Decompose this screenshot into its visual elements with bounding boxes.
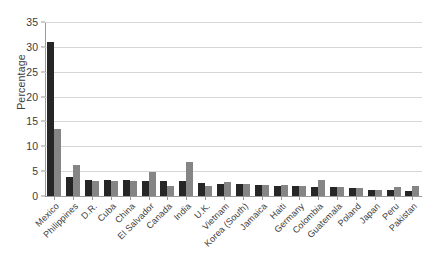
- x-axis-tick-slot: Pakistan: [403, 197, 422, 262]
- bar: [179, 181, 186, 196]
- bar: [262, 185, 269, 196]
- x-axis-tick-mark: [412, 197, 413, 200]
- x-axis-tick-mark: [318, 197, 319, 200]
- bar: [66, 177, 73, 196]
- x-axis-tick-mark: [205, 197, 206, 200]
- bar: [412, 186, 419, 196]
- bar: [236, 184, 243, 196]
- bar-group: [233, 22, 252, 196]
- y-axis-tick-label: 30: [26, 41, 38, 53]
- y-axis-tick-label: 35: [26, 16, 38, 28]
- bar: [387, 190, 394, 196]
- bar: [330, 187, 337, 196]
- bar: [104, 180, 111, 196]
- bar-group: [252, 22, 271, 196]
- bar-group: [102, 22, 121, 196]
- bar: [224, 182, 231, 196]
- bar: [85, 180, 92, 196]
- x-axis-tick-slot: India: [177, 197, 196, 262]
- x-axis-tick-mark: [149, 197, 150, 200]
- bar: [281, 185, 288, 196]
- bar: [73, 165, 80, 196]
- y-axis-tick-label: 15: [26, 115, 38, 127]
- bar: [186, 162, 193, 196]
- y-axis-tick-label: 5: [32, 165, 38, 177]
- x-axis-tick-slot: El Salvador: [139, 197, 158, 262]
- x-axis-tick-slot: Jamaica: [252, 197, 271, 262]
- bar-group: [290, 22, 309, 196]
- bar-group: [328, 22, 347, 196]
- y-axis-tick-label: 10: [26, 140, 38, 152]
- bar: [299, 186, 306, 196]
- bar-group: [215, 22, 234, 196]
- bar-group: [271, 22, 290, 196]
- bar: [394, 187, 401, 196]
- y-axis-tick-label: 0: [32, 190, 38, 202]
- bar-group: [83, 22, 102, 196]
- x-axis-tick-mark: [167, 197, 168, 200]
- bar-group: [64, 22, 83, 196]
- x-axis-tick-slot: Philippines: [64, 197, 83, 262]
- bar: [356, 188, 363, 196]
- bar: [274, 186, 281, 196]
- bar: [255, 185, 262, 196]
- x-axis-tick-labels: MexicoPhilippinesD.R.CubaChinaEl Salvado…: [45, 197, 422, 262]
- x-axis-tick-mark: [130, 197, 131, 200]
- x-axis-tick-mark: [54, 197, 55, 200]
- bar: [167, 186, 174, 196]
- x-axis-tick-slot: Japan: [365, 197, 384, 262]
- bar: [318, 180, 325, 196]
- x-axis-tick-mark: [337, 197, 338, 200]
- bar: [349, 188, 356, 196]
- bar: [92, 181, 99, 196]
- bar: [160, 181, 167, 196]
- bar-group: [158, 22, 177, 196]
- bar: [130, 181, 137, 196]
- y-axis-tick-label: 25: [26, 66, 38, 78]
- bar: [54, 129, 61, 196]
- plot-area: [45, 22, 422, 196]
- x-axis-tick-slot: Cuba: [102, 197, 121, 262]
- bar: [149, 172, 156, 196]
- bar-group: [139, 22, 158, 196]
- x-axis-tick-mark: [394, 197, 395, 200]
- x-axis-tick-mark: [186, 197, 187, 200]
- x-axis-tick-mark: [281, 197, 282, 200]
- bar: [368, 190, 375, 196]
- x-axis-tick-mark: [73, 197, 74, 200]
- x-axis-tick-mark: [224, 197, 225, 200]
- bar: [243, 184, 250, 196]
- x-axis-tick-mark: [111, 197, 112, 200]
- bar: [111, 181, 118, 196]
- x-axis-tick-mark: [299, 197, 300, 200]
- bar: [217, 184, 224, 196]
- bar-group: [347, 22, 366, 196]
- x-axis-tick-slot: Guatemala: [328, 197, 347, 262]
- bar-group: [120, 22, 139, 196]
- bar-chart: Percentage 05101520253035 MexicoPhilippi…: [0, 0, 436, 262]
- x-axis-tick-slot: D.R.: [83, 197, 102, 262]
- bar-group: [177, 22, 196, 196]
- bar-group: [196, 22, 215, 196]
- bar: [47, 42, 54, 196]
- x-axis-tick-mark: [92, 197, 93, 200]
- x-axis-tick-slot: Poland: [347, 197, 366, 262]
- bar-group: [403, 22, 422, 196]
- bar-groups: [45, 22, 422, 196]
- x-axis-tick-mark: [262, 197, 263, 200]
- bar: [375, 190, 382, 196]
- bar-group: [384, 22, 403, 196]
- x-axis-tick-slot: Canada: [158, 197, 177, 262]
- bar: [311, 187, 318, 196]
- y-axis-tick-label: 20: [26, 91, 38, 103]
- bar-group: [309, 22, 328, 196]
- bar: [123, 180, 130, 196]
- bar: [198, 183, 205, 196]
- bar-group: [365, 22, 384, 196]
- x-axis-tick-mark: [356, 197, 357, 200]
- bar-group: [45, 22, 64, 196]
- bar: [142, 181, 149, 196]
- x-axis-tick-mark: [243, 197, 244, 200]
- bar: [205, 186, 212, 196]
- bar: [405, 191, 412, 196]
